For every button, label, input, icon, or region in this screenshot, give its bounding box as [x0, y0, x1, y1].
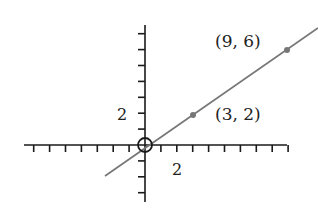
x-tick-label-2: 2	[172, 160, 182, 179]
point-3-2-marker	[190, 112, 196, 118]
point-9-6-marker	[284, 47, 290, 53]
y-axis	[138, 25, 145, 202]
coordinate-plane: (9, 6) (3, 2) 2 2	[0, 0, 318, 214]
x-axis	[24, 145, 288, 152]
x-axis-ticks	[34, 145, 288, 152]
point-3-2-label: (3, 2)	[215, 104, 261, 124]
point-9-6-label: (9, 6)	[215, 31, 261, 51]
y-axis-ticks	[138, 34, 145, 193]
y-tick-label-2: 2	[117, 105, 127, 124]
